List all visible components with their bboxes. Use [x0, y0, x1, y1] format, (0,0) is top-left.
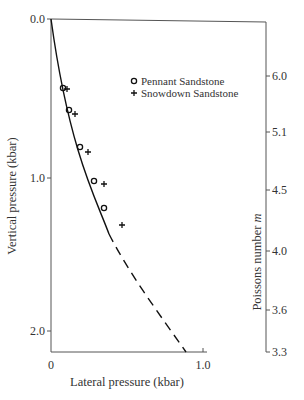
y2-ticks: 6.0 5.1 4.5 4.0 3.6 3.3: [266, 69, 287, 359]
y-tick-label: 0.0: [30, 12, 45, 26]
legend: Pennant Sandstone Snowdown Sandstone: [131, 75, 239, 99]
svg-text:6.0: 6.0: [272, 69, 287, 83]
x-axis-label: Lateral pressure (kbar): [70, 375, 184, 389]
fit-curve-solid: [51, 19, 109, 234]
y-tick-label: 1.0: [30, 171, 45, 185]
legend-pennant: Pennant Sandstone: [141, 75, 225, 87]
series-snowdown: [64, 86, 125, 228]
svg-text:4.5: 4.5: [272, 183, 287, 197]
fit-curve-dashed: [109, 234, 186, 352]
svg-text:3.6: 3.6: [272, 303, 287, 317]
plus-marker-icon: [131, 90, 137, 96]
circle-marker-icon: [131, 78, 136, 83]
y-axis-label: Vertical pressure (kbar): [5, 137, 19, 254]
x-tick-label: 0: [48, 358, 54, 372]
svg-text:3.3: 3.3: [272, 345, 287, 359]
x-axis-top: [51, 19, 266, 22]
legend-snowdown: Snowdown Sandstone: [141, 87, 239, 99]
svg-text:4.0: 4.0: [272, 244, 287, 258]
x-tick-label: 1.0: [196, 358, 211, 372]
svg-text:5.1: 5.1: [272, 125, 287, 139]
series-pennant: [60, 85, 106, 210]
y2-axis-label: Poissons number m: [250, 213, 264, 310]
chart: 0.0 1.0 2.0 0 1.0 6.0 5.1 4.5 4.0 3.6 3.…: [0, 0, 304, 400]
y-tick-label: 2.0: [30, 324, 45, 338]
